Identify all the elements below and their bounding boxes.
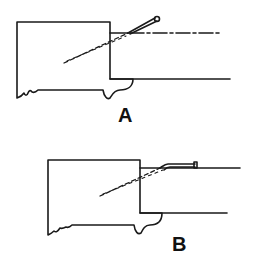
panel-b-needle-track-2 (103, 170, 163, 194)
panel-a-needle-hub (155, 17, 160, 22)
diagram-canvas (0, 0, 254, 263)
panel-a-needle-2 (130, 21, 157, 34)
panel-b-needle-track (100, 168, 160, 196)
panel-b-block (48, 160, 162, 235)
panel-b-drawing (48, 160, 240, 235)
panel-a-needle-track-2 (67, 36, 126, 61)
panel-a-drawing (17, 17, 230, 99)
panel-a-label: A (118, 104, 132, 127)
panel-a-needle (128, 18, 155, 33)
panel-b-label: B (172, 233, 186, 256)
